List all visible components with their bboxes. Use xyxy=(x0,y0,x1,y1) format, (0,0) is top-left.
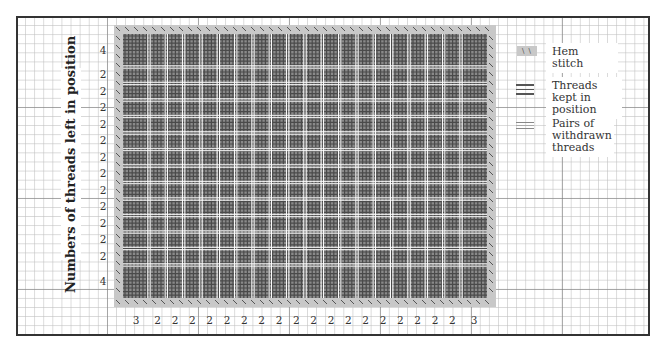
hem-stitch-legend-icon: \ \ xyxy=(517,46,537,56)
row-label: 2 xyxy=(96,85,110,97)
row-label: 2 xyxy=(96,233,110,245)
column-label: 3 xyxy=(129,314,143,326)
column-label: 2 xyxy=(151,314,165,326)
column-label: 2 xyxy=(411,314,425,326)
sampler-pattern xyxy=(114,25,496,307)
row-label: 2 xyxy=(96,167,110,179)
column-label: 2 xyxy=(220,314,234,326)
column-label: 2 xyxy=(341,314,355,326)
row-label: 2 xyxy=(96,217,110,229)
row-label: 2 xyxy=(96,101,110,113)
row-label: 2 xyxy=(96,200,110,212)
column-label: 2 xyxy=(168,314,182,326)
legend-withdrawn-pairs: Pairs of withdrawn threads xyxy=(546,115,614,157)
column-label: 2 xyxy=(359,314,373,326)
row-label: 2 xyxy=(96,134,110,146)
legend-threads-kept: Threads kept in position xyxy=(546,77,622,119)
legend-hem-stitch: Hem stitch xyxy=(546,43,618,73)
threads-kept-legend-icon xyxy=(516,84,534,95)
column-label: 2 xyxy=(445,314,459,326)
column-label: 2 xyxy=(376,314,390,326)
row-label: 4 xyxy=(96,44,110,56)
row-label: 4 xyxy=(96,275,110,287)
column-label: 2 xyxy=(289,314,303,326)
column-label: 2 xyxy=(324,314,338,326)
column-label: 2 xyxy=(203,314,217,326)
y-axis-label: Numbers of threads left in position xyxy=(61,68,81,260)
column-label: 2 xyxy=(237,314,251,326)
row-label: 2 xyxy=(96,184,110,196)
column-label: 3 xyxy=(467,314,481,326)
row-label: 2 xyxy=(96,118,110,130)
row-label: 2 xyxy=(96,250,110,262)
withdrawn-pairs-legend-icon xyxy=(516,122,534,129)
column-label: 2 xyxy=(428,314,442,326)
column-label: 2 xyxy=(272,314,286,326)
column-label: 2 xyxy=(185,314,199,326)
column-label: 2 xyxy=(255,314,269,326)
column-label: 2 xyxy=(307,314,321,326)
row-label: 2 xyxy=(96,68,110,80)
column-label: 2 xyxy=(393,314,407,326)
row-label: 2 xyxy=(96,151,110,163)
